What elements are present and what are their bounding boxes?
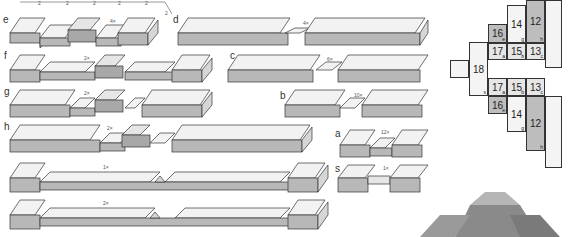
piece-label-b: b — [280, 90, 286, 101]
piece-label-f: f — [4, 50, 7, 61]
grid-cell: 13c — [526, 78, 545, 96]
piece-count-d: 4× — [303, 20, 309, 26]
puzzle-pieces-diagram — [0, 0, 568, 237]
piece-count-long1: 1× — [103, 164, 109, 170]
piece-label-a: a — [335, 128, 341, 139]
grid-cell: 17a — [488, 78, 507, 96]
piece-label-c: c — [230, 50, 235, 61]
grid-cell: 13c — [526, 43, 545, 60]
dimension-mark: 2 — [38, 0, 41, 6]
piece-count-b: 10× — [354, 92, 362, 98]
piece-count-h: 2× — [107, 125, 113, 131]
piece-label-s: s — [335, 163, 340, 174]
dimension-mark: 2 — [66, 0, 69, 6]
piece-count-e: 4× — [110, 18, 116, 24]
grid-cell: 16e — [488, 96, 507, 114]
grid-cell: 12h — [526, 96, 545, 151]
piece-count-a: 12× — [381, 129, 389, 135]
grid-cell: 17a — [488, 43, 507, 60]
piece-label-h: h — [4, 121, 10, 132]
grid-cell: 15b — [507, 78, 526, 96]
piece-label-e: e — [3, 14, 9, 25]
grid-cell: 14g — [507, 96, 526, 132]
dimension-mark: 2 — [165, 10, 168, 16]
dimension-mark: 2 — [93, 0, 96, 6]
grid-cell: 12h — [526, 0, 545, 43]
grid-cell: 14g — [507, 5, 526, 43]
assembled-puzzle-render — [420, 192, 560, 237]
piece-label-d: d — [173, 14, 179, 25]
piece-count-long2: 2× — [103, 200, 109, 206]
piece-count-s: 1× — [383, 165, 389, 171]
dimension-lines — [20, 2, 172, 14]
grid-cell — [545, 96, 562, 168]
dimension-mark: 2 — [118, 0, 121, 6]
piece-count-c: 6× — [327, 56, 333, 62]
grid-cell: 18s — [469, 42, 488, 96]
dimension-mark: 2 — [145, 0, 148, 6]
piece-label-g: g — [4, 86, 10, 97]
piece-count-f: 2× — [84, 55, 90, 61]
grid-cell: 16e — [488, 24, 507, 43]
grid-cell — [450, 60, 469, 78]
grid-cell — [545, 0, 562, 68]
piece-count-g: 2× — [84, 90, 90, 96]
grid-cell: 15b — [507, 43, 526, 60]
